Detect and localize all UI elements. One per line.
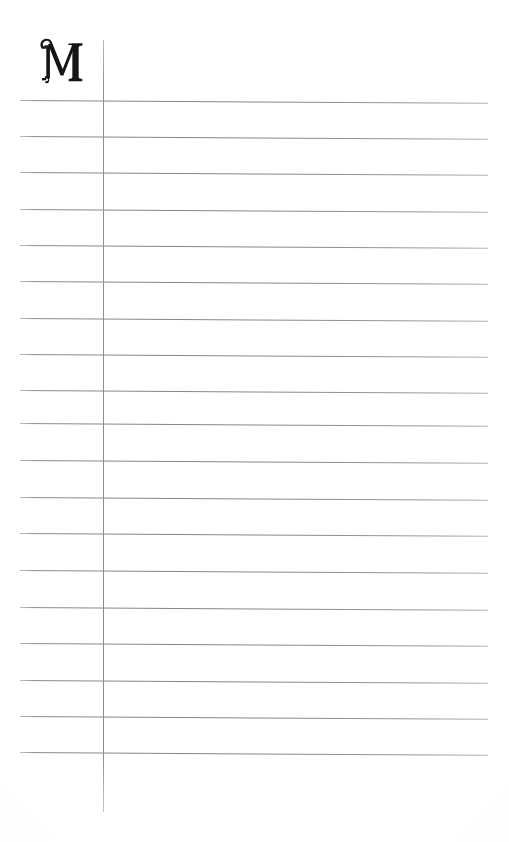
ruled-line — [20, 570, 488, 574]
ruled-line — [20, 318, 488, 322]
ruled-line — [20, 354, 488, 358]
ruled-line — [20, 533, 488, 537]
document-page — [0, 0, 509, 842]
ruled-line — [20, 607, 488, 611]
ruled-line — [20, 245, 488, 249]
ruled-line — [20, 136, 488, 140]
ruled-line — [20, 680, 488, 684]
ruled-line — [20, 390, 488, 394]
drop-cap-initial — [30, 30, 86, 98]
ruled-line — [20, 643, 488, 647]
drop-cap-glyph-path — [40, 39, 82, 83]
ruled-line — [20, 423, 488, 427]
ruled-line — [20, 752, 488, 756]
ruled-line — [20, 460, 488, 464]
ruled-line — [20, 209, 488, 213]
ruled-line — [20, 716, 488, 720]
ruled-line — [20, 100, 488, 104]
ruled-line — [20, 172, 488, 176]
vertical-column-rule — [103, 40, 104, 812]
ruled-line — [20, 281, 488, 285]
ruled-lines-group — [0, 0, 509, 842]
ruled-line — [20, 497, 488, 501]
